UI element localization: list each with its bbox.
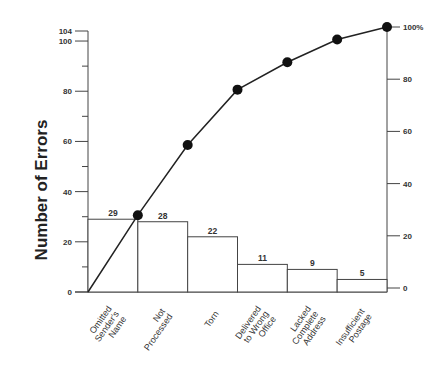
left-tick-label: 0 [68, 288, 73, 297]
cumulative-point [233, 85, 243, 95]
left-tick-label: 100 [59, 37, 73, 46]
category-label: OmittedSender'sName [85, 304, 128, 349]
right-tick-label: 60 [403, 127, 412, 136]
y-axis-label: Number of Errors [32, 120, 51, 261]
category-label: NotProcessed [135, 306, 175, 352]
cumulative-point [133, 210, 143, 220]
cumulative-point [332, 35, 342, 45]
right-tick-label: 40 [403, 180, 412, 189]
left-tick-label: 80 [63, 87, 72, 96]
bar-value-label: 9 [310, 258, 315, 268]
bar [188, 237, 238, 292]
right-axis: 020406080100% [387, 23, 423, 293]
svg-text:Torn: Torn [202, 309, 220, 329]
right-tick-label: 80 [403, 75, 412, 84]
bar [138, 222, 188, 292]
bar [238, 264, 288, 292]
pareto-chart: 020406080100104 020406080100% 2928221195… [0, 0, 447, 372]
bar [287, 269, 337, 292]
bars: 2928221195 [88, 208, 387, 292]
category-label: InsufficientPostage [334, 306, 374, 352]
cumulative-point [183, 140, 193, 150]
left-tick-label: 20 [63, 238, 72, 247]
cumulative-point [282, 57, 292, 67]
category-label: Torn [202, 309, 220, 329]
right-tick-label: 0 [403, 284, 408, 293]
left-tick-label: 40 [63, 188, 72, 197]
bar [337, 279, 387, 292]
category-labels: OmittedSender'sNameNotProcessedTornDeliv… [85, 304, 374, 353]
cumulative-point [382, 22, 392, 32]
bar-value-label: 22 [208, 226, 218, 236]
bar-value-label: 5 [360, 268, 365, 278]
category-label: Deliveredto WrongOffice [233, 304, 278, 351]
right-tick-label: 100% [403, 23, 423, 32]
right-tick-label: 20 [403, 232, 412, 241]
bar-value-label: 29 [108, 208, 118, 218]
left-tick-label: 104 [59, 27, 73, 36]
bar-value-label: 28 [158, 211, 168, 221]
category-label: LackedCompleteAddress [283, 304, 328, 352]
bar-value-label: 11 [258, 253, 267, 263]
left-tick-label: 60 [63, 137, 72, 146]
